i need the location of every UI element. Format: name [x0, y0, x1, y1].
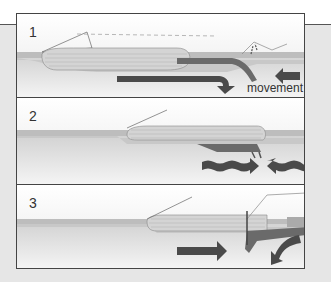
panel-3-illustration	[17, 185, 304, 268]
movement-label: movement	[247, 81, 303, 95]
panel-number: 3	[29, 195, 37, 211]
panel-3: 3	[17, 185, 304, 268]
panel-2: 2	[17, 98, 304, 184]
panel-number: 1	[29, 24, 37, 40]
diagram-frame: 1 movement 2	[16, 13, 305, 269]
panel-2-illustration	[17, 98, 304, 184]
panel-number: 2	[29, 108, 37, 124]
panel-1: 1 movement	[17, 14, 304, 97]
